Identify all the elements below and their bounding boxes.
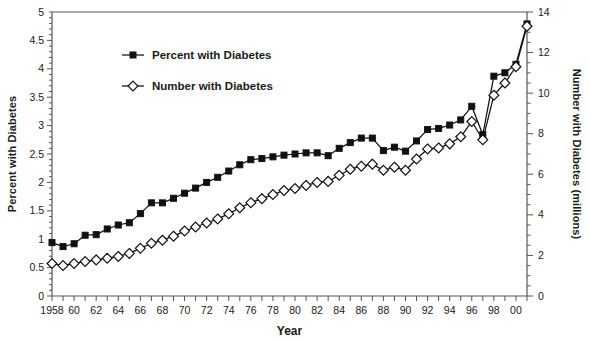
marker-filled-square xyxy=(60,244,66,250)
y-axis-title-right: Number with Diabetes (millions) xyxy=(571,69,583,240)
marker-open-diamond xyxy=(169,231,179,241)
marker-filled-square xyxy=(469,103,475,109)
marker-open-diamond xyxy=(356,161,366,171)
marker-filled-square xyxy=(447,122,453,128)
diabetes-trend-chart: 1958606264666870727476788082848688909294… xyxy=(0,0,590,341)
marker-open-diamond xyxy=(58,261,68,271)
x-axis: 1958606264666870727476788082848688909294… xyxy=(40,296,527,316)
marker-open-diamond xyxy=(113,252,123,262)
marker-filled-square xyxy=(82,232,88,238)
marker-open-diamond xyxy=(224,209,234,219)
marker-filled-square xyxy=(215,174,221,180)
marker-filled-square xyxy=(358,135,364,141)
marker-filled-square xyxy=(270,154,276,160)
marker-filled-square xyxy=(491,73,497,79)
marker-open-diamond xyxy=(91,255,101,265)
marker-open-diamond xyxy=(191,222,201,232)
marker-open-diamond xyxy=(80,257,90,267)
y-tick-label-right: 10 xyxy=(538,87,550,99)
y-tick-label-right: 6 xyxy=(538,168,544,180)
legend-entry: Percent with Diabetes xyxy=(122,49,272,61)
y-tick-label-left: 4 xyxy=(38,62,44,74)
x-tick-label: 74 xyxy=(223,304,235,316)
y-tick-label-right: 14 xyxy=(538,6,550,18)
marker-open-diamond xyxy=(345,164,355,174)
marker-filled-square xyxy=(226,168,232,174)
x-tick-label: 94 xyxy=(444,304,456,316)
x-tick-label: 86 xyxy=(355,304,367,316)
axis-titles: Percent with DiabetesNumber with Diabete… xyxy=(6,69,583,338)
x-tick-label: 90 xyxy=(400,304,412,316)
y-tick-label-left: 2 xyxy=(38,176,44,188)
y-tick-label-left: 0.5 xyxy=(29,261,44,273)
marker-filled-square xyxy=(171,195,177,201)
y-tick-label-right: 2 xyxy=(538,249,544,261)
marker-open-diamond xyxy=(312,177,322,187)
marker-open-diamond xyxy=(124,248,134,258)
marker-filled-square xyxy=(380,148,386,154)
x-tick-label: 62 xyxy=(90,304,102,316)
marker-filled-square xyxy=(193,185,199,191)
series-number-with-diabetes xyxy=(47,21,532,270)
series-line xyxy=(52,24,527,247)
marker-filled-square xyxy=(115,222,121,228)
marker-open-diamond xyxy=(147,238,157,248)
x-tick-label: 84 xyxy=(333,304,345,316)
y-tick-label-left: 3 xyxy=(38,119,44,131)
marker-open-diamond xyxy=(467,117,477,127)
marker-open-diamond xyxy=(213,214,223,224)
marker-filled-square xyxy=(402,148,408,154)
marker-filled-square xyxy=(281,152,287,158)
x-tick-label: 70 xyxy=(179,304,191,316)
y-tick-label-right: 12 xyxy=(538,46,550,58)
y-tick-label-right: 8 xyxy=(538,127,544,139)
y-tick-label-right: 0 xyxy=(538,290,544,302)
marker-filled-square xyxy=(336,145,342,151)
x-tick-label: 82 xyxy=(311,304,323,316)
x-tick-label: 66 xyxy=(135,304,147,316)
marker-filled-square xyxy=(182,190,188,196)
marker-open-diamond xyxy=(378,165,388,175)
marker-filled-square xyxy=(347,140,353,146)
marker-open-diamond xyxy=(235,203,245,213)
legend: Percent with DiabetesNumber with Diabete… xyxy=(122,49,273,92)
marker-open-diamond xyxy=(445,139,455,149)
marker-filled-square xyxy=(248,157,254,163)
marker-open-diamond xyxy=(290,184,300,194)
marker-open-diamond xyxy=(135,243,145,253)
marker-open-diamond xyxy=(456,132,466,142)
x-tick-label: 92 xyxy=(422,304,434,316)
marker-filled-square xyxy=(303,150,309,156)
x-axis-title: Year xyxy=(277,324,303,338)
x-tick-label: 72 xyxy=(201,304,213,316)
marker-filled-square xyxy=(292,151,298,157)
legend-label: Number with Diabetes xyxy=(152,80,273,92)
x-tick-label: 1958 xyxy=(40,304,64,316)
y-tick-label-right: 4 xyxy=(538,208,544,220)
marker-open-diamond xyxy=(246,198,256,208)
marker-filled-square xyxy=(237,162,243,168)
marker-filled-square xyxy=(159,200,165,206)
x-tick-label: 98 xyxy=(488,304,500,316)
marker-open-diamond xyxy=(334,170,344,180)
marker-filled-square xyxy=(458,117,464,123)
marker-filled-square xyxy=(436,125,442,131)
marker-filled-square xyxy=(104,226,110,232)
marker-filled-square xyxy=(137,211,143,217)
y-tick-label-left: 5 xyxy=(38,6,44,18)
x-tick-label: 96 xyxy=(466,304,478,316)
marker-open-diamond xyxy=(301,181,311,191)
y-tick-label-left: 4.5 xyxy=(29,34,44,46)
marker-open-diamond xyxy=(390,162,400,172)
series-layer xyxy=(47,21,532,271)
marker-open-diamond xyxy=(202,218,212,228)
y-axis-title-left: Percent with Diabetes xyxy=(6,96,18,212)
marker-open-diamond xyxy=(323,176,333,186)
marker-open-diamond xyxy=(102,253,112,263)
marker-open-diamond xyxy=(434,143,444,153)
marker-filled-square xyxy=(391,144,397,150)
marker-open-diamond xyxy=(367,159,377,169)
x-tick-label: 80 xyxy=(289,304,301,316)
y-tick-label-left: 1.5 xyxy=(29,204,44,216)
x-tick-label: 78 xyxy=(267,304,279,316)
